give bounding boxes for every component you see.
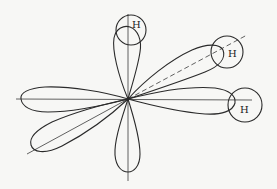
lobe-bottom <box>115 99 140 172</box>
hydrogen-label-right: H <box>240 104 249 115</box>
hydrogen-label-upper-right: H <box>228 48 237 59</box>
diagonal-axis-solid <box>27 99 128 154</box>
hydrogen-label-top: H <box>132 19 141 30</box>
orbital-diagram: H H H <box>0 0 277 189</box>
hydrogen-circle-top <box>116 15 146 45</box>
diagonal-axis-dashed <box>128 35 247 99</box>
orbital-svg: H H H <box>0 0 277 189</box>
lobe-right <box>128 88 235 115</box>
horizontal-axis <box>16 99 252 100</box>
